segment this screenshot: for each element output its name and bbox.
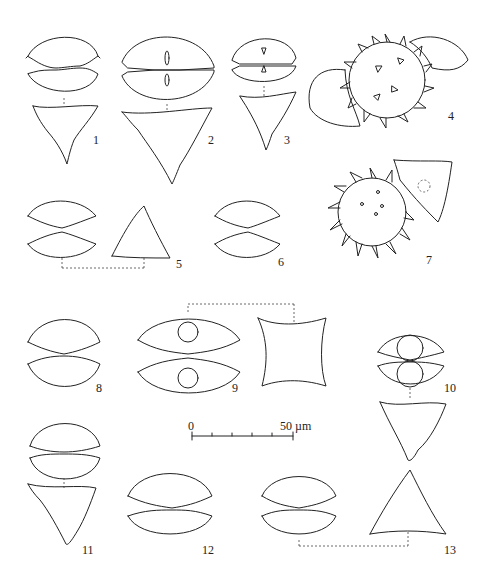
specimen-4 <box>309 34 468 128</box>
specimen-7 <box>328 160 452 258</box>
specimen-13 <box>262 470 446 546</box>
label-8: 8 <box>96 381 102 395</box>
label-5: 5 <box>176 257 182 271</box>
specimen-1 <box>26 37 100 164</box>
label-10: 10 <box>444 381 456 395</box>
label-12: 12 <box>202 543 214 557</box>
label-1: 1 <box>93 133 99 147</box>
label-11: 11 <box>82 543 94 557</box>
label-9: 9 <box>232 381 238 395</box>
specimen-6 <box>215 201 280 258</box>
specimen-9 <box>138 304 326 393</box>
label-13: 13 <box>444 543 456 557</box>
specimen-8 <box>28 320 100 387</box>
label-6: 6 <box>278 255 284 269</box>
label-3: 3 <box>284 133 290 147</box>
label-2: 2 <box>208 133 214 147</box>
specimen-5 <box>28 201 170 268</box>
specimen-2 <box>122 37 214 184</box>
scale-bar <box>192 432 293 440</box>
specimen-10 <box>378 335 446 461</box>
scale-bar-start-label: 0 <box>188 419 194 433</box>
label-4: 4 <box>448 109 454 123</box>
specimen-12 <box>128 474 212 535</box>
scale-bar-end-label: 50 µm <box>280 419 312 433</box>
specimen-11 <box>28 424 100 545</box>
figure-plate: 1 2 3 4 <box>0 0 490 587</box>
label-7: 7 <box>426 253 432 267</box>
